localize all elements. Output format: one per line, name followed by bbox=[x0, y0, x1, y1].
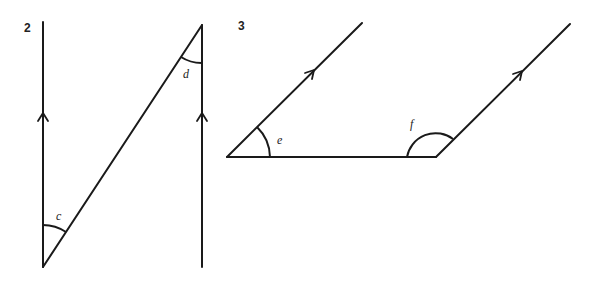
parallel-line-left-slanted bbox=[227, 23, 362, 157]
angle-arc-c bbox=[43, 225, 66, 232]
parallel-line-right-slanted bbox=[436, 24, 570, 157]
figure-2: 2 c d bbox=[24, 21, 207, 267]
angle-arc-f bbox=[407, 133, 453, 157]
transversal-line bbox=[43, 25, 202, 267]
angle-label-e: e bbox=[277, 133, 283, 147]
angle-arc-e bbox=[257, 127, 270, 157]
figure-number-2: 2 bbox=[24, 21, 31, 35]
angle-arc-d bbox=[181, 57, 202, 63]
figure-number-3: 3 bbox=[238, 19, 245, 33]
angle-label-d: d bbox=[183, 67, 190, 81]
geometry-diagram: 2 c d 3 e f bbox=[0, 0, 596, 286]
angle-label-c: c bbox=[56, 209, 62, 223]
angle-label-f: f bbox=[410, 117, 415, 131]
figure-3: 3 e f bbox=[227, 19, 570, 157]
